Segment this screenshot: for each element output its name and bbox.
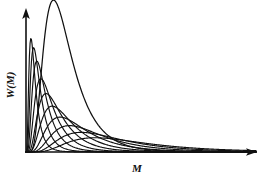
x-axis-label: M (131, 162, 143, 174)
axes-group (22, 8, 257, 156)
curve-peak-1 (26, 38, 256, 152)
curve-envelope (26, 0, 256, 152)
y-axis-label: W(M) (4, 72, 17, 99)
distribution-plot: M W(M) (0, 0, 269, 180)
curves-group (26, 0, 256, 152)
figure-container: M W(M) (0, 0, 269, 180)
curve-peak-4 (26, 79, 256, 152)
